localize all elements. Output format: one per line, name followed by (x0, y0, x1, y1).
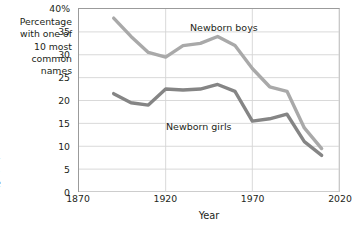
plot-area (78, 8, 340, 192)
x-tick-label-1970: 1970 (241, 193, 265, 204)
y-tick-label-5: 5 (2, 164, 70, 175)
y-tick-label-25: 25 (2, 72, 70, 83)
y-tick-label-30: 30 (2, 49, 70, 60)
line-chart: Newborn boys Newborn girls (78, 8, 340, 192)
figure-root: s. U.S. red the 2006). edalist o. I am o… (0, 0, 358, 236)
series-label-newborn-girls: Newborn girls (166, 121, 232, 132)
x-tick-label-1920: 1920 (153, 193, 177, 204)
y-axis-tick-labels: 0510152025303540% (0, 8, 74, 192)
y-tick-label-15: 15 (2, 118, 70, 129)
series-label-newborn-boys: Newborn boys (190, 22, 258, 33)
y-tick-label-20: 20 (2, 95, 70, 106)
x-tick-label-2020: 2020 (328, 193, 352, 204)
y-tick-label-10: 10 (2, 141, 70, 152)
plot-svg (79, 9, 339, 192)
x-tick-label-1870: 1870 (66, 193, 90, 204)
x-axis-tick-labels: 1870192019702020 (78, 193, 340, 209)
y-tick-label-35: 35 (2, 26, 70, 37)
x-axis-title: Year (78, 210, 340, 221)
y-tick-label-40: 40% (2, 3, 70, 14)
y-tick-label-0: 0 (2, 187, 70, 198)
